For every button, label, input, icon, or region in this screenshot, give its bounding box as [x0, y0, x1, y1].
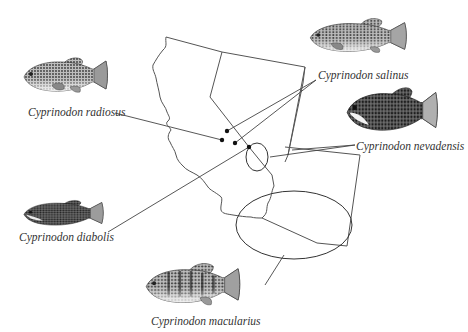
- fish-salinus-illustration: [310, 19, 406, 53]
- leader-salinus-b: [235, 80, 316, 143]
- label-nevadensis: Cyprinodon nevadensis: [356, 141, 464, 153]
- macularius-range-ellipse: [236, 191, 352, 259]
- label-radiosus: Cyprinodon radiosus: [28, 107, 125, 119]
- fish-radiosus-illustration: [24, 58, 108, 92]
- pupfish-distribution-map: Cyprinodon radiosus Cyprinodon salinus C…: [0, 0, 468, 332]
- ca-nv-border: [210, 52, 274, 218]
- dot-diabolis: [247, 145, 251, 149]
- fish-macularius-illustration: [146, 264, 240, 305]
- fish-diabolis-illustration: [24, 200, 103, 225]
- fish-nevadensis-illustration: [347, 88, 437, 130]
- dot-salinus-2: [233, 141, 237, 145]
- leader-salinus-a: [227, 80, 316, 131]
- dot-salinus-1: [225, 129, 229, 133]
- label-diabolis: Cyprinodon diabolis: [19, 232, 114, 244]
- dot-radiosus: [220, 138, 224, 142]
- label-salinus: Cyprinodon salinus: [318, 70, 408, 82]
- leader-lines: [108, 80, 355, 285]
- location-dots: [220, 129, 251, 149]
- leader-macularius: [265, 255, 284, 285]
- leader-nevadensis-b: [270, 145, 355, 157]
- label-macularius: Cyprinodon macularius: [151, 316, 261, 328]
- arizona-outline: [262, 147, 360, 246]
